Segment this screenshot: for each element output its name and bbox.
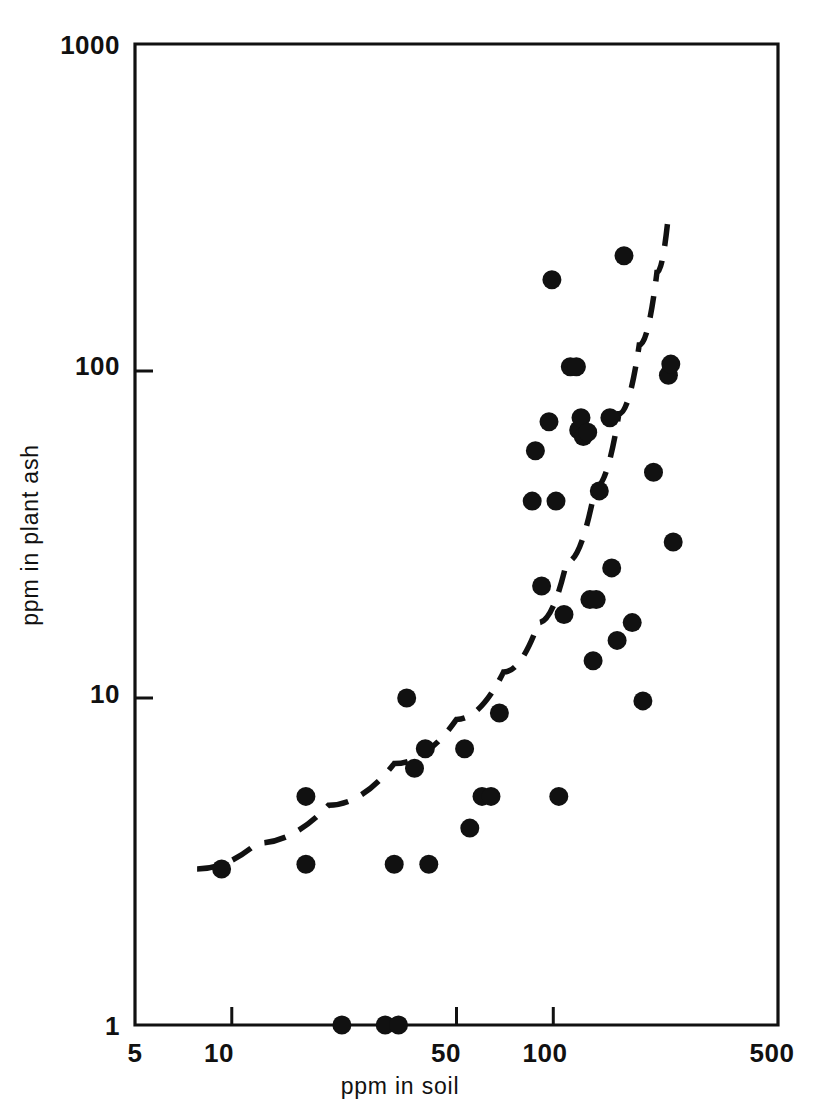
data-point bbox=[455, 739, 474, 758]
figure-container: 1000 100 10 1 5 10 50 100 500 ppm in soi… bbox=[0, 0, 823, 1120]
x-tick-label-5: 5 bbox=[128, 1038, 143, 1068]
data-point bbox=[296, 855, 315, 874]
data-point bbox=[532, 577, 551, 596]
data-point bbox=[600, 408, 619, 427]
data-point bbox=[460, 819, 479, 838]
data-point bbox=[633, 691, 652, 710]
data-point bbox=[542, 270, 561, 289]
plot-background bbox=[0, 0, 823, 1120]
data-point bbox=[385, 855, 404, 874]
data-point bbox=[212, 860, 231, 879]
data-point bbox=[615, 246, 634, 265]
data-point bbox=[578, 423, 597, 442]
data-point bbox=[555, 605, 574, 624]
x-axis-title: ppm in soil bbox=[341, 1073, 460, 1099]
data-point bbox=[523, 492, 542, 511]
x-tick-label-100: 100 bbox=[523, 1038, 568, 1068]
data-point bbox=[567, 357, 586, 376]
data-point bbox=[661, 355, 680, 374]
y-tick-label-1: 1 bbox=[105, 1011, 120, 1041]
y-axis-title: ppm in plant ash bbox=[17, 444, 43, 626]
data-point bbox=[482, 787, 501, 806]
data-point bbox=[547, 492, 566, 511]
data-point bbox=[405, 759, 424, 778]
data-point bbox=[587, 590, 606, 609]
data-point bbox=[540, 412, 559, 431]
data-point bbox=[389, 1016, 408, 1035]
x-tick-label-500: 500 bbox=[750, 1038, 795, 1068]
y-tick-label-1000: 1000 bbox=[60, 30, 120, 60]
data-point bbox=[644, 463, 663, 482]
data-point bbox=[549, 787, 568, 806]
scatter-plot: 1000 100 10 1 5 10 50 100 500 ppm in soi… bbox=[0, 0, 823, 1120]
data-point bbox=[296, 787, 315, 806]
x-tick-label-10: 10 bbox=[204, 1038, 234, 1068]
data-point bbox=[419, 855, 438, 874]
data-point bbox=[397, 689, 416, 708]
y-tick-label-10: 10 bbox=[90, 679, 120, 709]
data-point bbox=[490, 704, 509, 723]
x-tick-label-50: 50 bbox=[431, 1038, 461, 1068]
data-point bbox=[590, 481, 609, 500]
data-point bbox=[332, 1016, 351, 1035]
data-point bbox=[608, 631, 627, 650]
data-point bbox=[584, 651, 603, 670]
y-tick-label-100: 100 bbox=[75, 351, 120, 381]
data-point bbox=[623, 613, 642, 632]
data-point bbox=[664, 533, 683, 552]
data-point bbox=[602, 558, 621, 577]
data-point bbox=[416, 739, 435, 758]
data-point bbox=[526, 441, 545, 460]
